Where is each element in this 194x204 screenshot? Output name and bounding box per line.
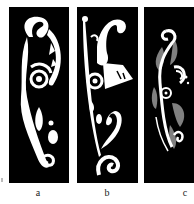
- panel-b-image: [77, 7, 138, 183]
- swirl-ornament-b: [77, 7, 138, 183]
- panel-b-label: b: [97, 187, 117, 198]
- swirl-ornament-c: [144, 7, 194, 183]
- swirl-ornament-a: [9, 7, 69, 183]
- panel-a-image: [9, 7, 69, 183]
- stray-mark: [1, 178, 3, 182]
- panel-c-image: [144, 7, 194, 183]
- panel-a-label: a: [28, 187, 48, 198]
- panel-c-label: c: [175, 187, 194, 198]
